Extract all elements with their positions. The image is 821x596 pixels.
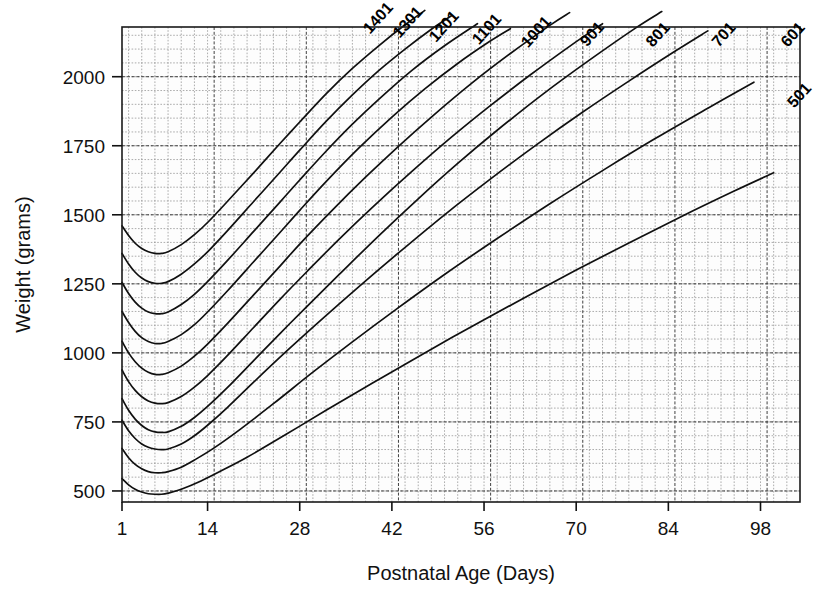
x-tick-label: 56 [473, 518, 494, 539]
x-tick-label: 98 [750, 518, 771, 539]
x-axis-title: Postnatal Age (Days) [367, 562, 555, 584]
y-axis-title: Weight (grams) [12, 196, 34, 332]
y-tick-label: 2000 [63, 67, 105, 88]
x-tick-label: 14 [197, 518, 219, 539]
y-tick-label: 1750 [63, 136, 105, 157]
x-tick-label: 84 [658, 518, 680, 539]
y-tick-label: 500 [73, 481, 105, 502]
x-tick-label: 42 [381, 518, 402, 539]
chart-figure: 114284256708498 500750100012501500175020… [0, 0, 821, 596]
x-tick-label: 28 [289, 518, 310, 539]
growth-chart-svg: 114284256708498 500750100012501500175020… [0, 0, 821, 596]
y-tick-label: 1500 [63, 205, 105, 226]
y-tick-label: 750 [73, 412, 105, 433]
y-tick-label: 1000 [63, 343, 105, 364]
y-tick-label: 1250 [63, 274, 105, 295]
x-tick-label: 1 [117, 518, 128, 539]
x-tick-label: 70 [566, 518, 587, 539]
